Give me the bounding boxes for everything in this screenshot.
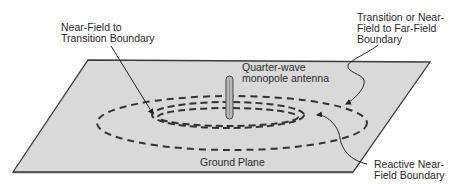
near-field-transition-label: Near-Field to Transition Boundary xyxy=(61,22,155,44)
antenna-label: Quarter-wave monopole antenna xyxy=(242,62,329,84)
label-line: Field Boundary xyxy=(374,170,445,181)
reactive-near-field-label: Reactive Near- Field Boundary xyxy=(374,159,445,181)
label-line: Transition Boundary xyxy=(61,33,155,44)
label-line: Boundary xyxy=(357,34,444,45)
monopole-antenna-icon xyxy=(226,76,233,119)
label-line: monopole antenna xyxy=(242,73,329,84)
far-field-boundary-label: Transition or Near- Field to Far-Field B… xyxy=(357,12,444,45)
antenna-field-diagram: Near-Field to Transition Boundary Transi… xyxy=(0,0,455,184)
ground-plane-label: Ground Plane xyxy=(200,157,265,168)
